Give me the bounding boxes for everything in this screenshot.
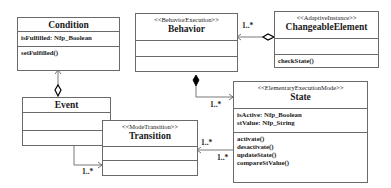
operation: updateState() bbox=[237, 151, 364, 159]
operations-section bbox=[136, 57, 237, 61]
event-condition-aggregation bbox=[55, 70, 61, 96]
stereotype: <<AdaptiveInstance>> bbox=[275, 12, 378, 22]
class-name: Transition bbox=[103, 131, 197, 142]
attribute: stValue: Nfp_String bbox=[237, 119, 364, 127]
class-name: State bbox=[234, 92, 367, 103]
class-header: <<AdaptiveInstance>> ChangeableElement bbox=[275, 12, 378, 39]
changeable-behavior-aggregation bbox=[237, 34, 274, 40]
attributes-section bbox=[23, 113, 110, 131]
attributes-section bbox=[275, 39, 378, 55]
attribute: isActive: Nfp_Boolean bbox=[237, 111, 364, 119]
operation: desactivate() bbox=[237, 143, 364, 151]
operations-section: activate() desactivate() updateState() c… bbox=[234, 133, 367, 169]
class-name: Behavior bbox=[136, 24, 237, 35]
class-state[interactable]: <<ElementaryExecutionMode>> State isActi… bbox=[233, 81, 368, 183]
class-condition[interactable]: Condition isFulfilled: Nfp_Boolean setFu… bbox=[17, 17, 120, 71]
class-header: <<BehaviorExecution>> Behavior bbox=[136, 14, 237, 41]
operations-section bbox=[23, 131, 110, 135]
class-event[interactable]: Event bbox=[22, 97, 111, 146]
class-header: <<ElementaryExecutionMode>> State bbox=[234, 82, 367, 109]
class-header: <<ModeTransition>> Transition bbox=[103, 121, 197, 147]
class-transition[interactable]: <<ModeTransition>> Transition bbox=[102, 120, 198, 176]
operations-section: checkState() bbox=[275, 55, 378, 67]
stereotype: <<ModeTransition>> bbox=[103, 121, 197, 131]
attributes-section bbox=[103, 147, 197, 161]
class-name: Condition bbox=[18, 18, 119, 32]
multiplicity-changeable-behavior: 1..* bbox=[242, 21, 253, 30]
operation: setFulfilled() bbox=[21, 49, 116, 57]
multiplicity-event-transition: 1..* bbox=[82, 167, 93, 176]
class-changeable-element[interactable]: <<AdaptiveInstance>> ChangeableElement c… bbox=[274, 11, 379, 68]
class-name: ChangeableElement bbox=[275, 22, 378, 33]
operation: compareStValue() bbox=[237, 159, 364, 167]
stereotype: <<BehaviorExecution>> bbox=[136, 14, 237, 24]
operations-section bbox=[103, 161, 197, 165]
attributes-section: isFulfilled: Nfp_Boolean bbox=[18, 32, 119, 47]
attribute: isFulfilled: Nfp_Boolean bbox=[21, 34, 116, 42]
attributes-section: isActive: Nfp_Boolean stValue: Nfp_Strin… bbox=[234, 109, 367, 133]
class-behavior[interactable]: <<BehaviorExecution>> Behavior bbox=[135, 13, 238, 72]
multiplicity-behavior-state: 1..* bbox=[210, 100, 221, 109]
stereotype: <<ElementaryExecutionMode>> bbox=[234, 82, 367, 92]
behavior-state-composition bbox=[193, 75, 233, 100]
operation: activate() bbox=[237, 135, 364, 143]
event-transition-association bbox=[74, 145, 102, 168]
operations-section: setFulfilled() bbox=[18, 47, 119, 59]
operation: checkState() bbox=[278, 57, 375, 65]
multiplicity-state-transition-top: 1..* bbox=[201, 138, 212, 147]
attributes-section bbox=[136, 41, 237, 57]
multiplicity-state-transition-bottom: 1..* bbox=[217, 153, 228, 162]
class-name: Event bbox=[23, 98, 110, 113]
